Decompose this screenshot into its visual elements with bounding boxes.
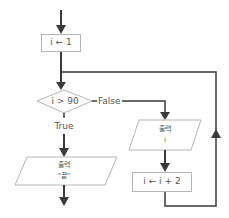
condition-label: i > 90 xyxy=(40,96,90,107)
init-to-condition-arrow xyxy=(56,52,66,90)
output-i-line2: i xyxy=(147,135,183,146)
output-to-increment-arrow xyxy=(160,150,170,172)
output-end-line2: "끝" xyxy=(46,171,82,182)
true-edge-label: True xyxy=(49,121,79,132)
increment-label: i ← i + 2 xyxy=(132,176,192,187)
flowchart-canvas xyxy=(0,0,229,218)
init-label: i ← 1 xyxy=(41,37,81,48)
output-end-line1: 출력 xyxy=(46,160,82,171)
false-edge-label: False xyxy=(97,96,122,106)
true-branch-arrow xyxy=(59,113,69,157)
exit-arrow xyxy=(59,185,69,206)
loop-up-arrow-icon xyxy=(211,129,221,138)
output-i-line1: 출력 xyxy=(147,124,183,135)
entry-arrow xyxy=(56,10,66,34)
